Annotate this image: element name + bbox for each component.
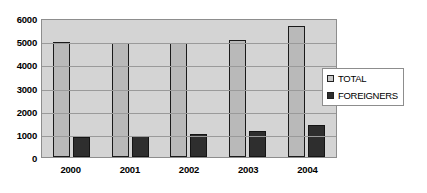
gridline [42, 90, 336, 91]
bar-foreigners-2003 [249, 131, 266, 157]
bar-chart: 0100020003000400050006000 20002001200220… [0, 0, 427, 193]
bar-total-2004 [288, 26, 305, 157]
gridline [42, 66, 336, 67]
x-axis-tick-label: 2001 [100, 160, 159, 180]
y-axis-tick-label: 6000 [17, 14, 37, 25]
legend-swatch-foreigners-icon [327, 92, 334, 99]
legend-item: TOTAL [327, 73, 398, 84]
bar-foreigners-2004 [308, 125, 325, 157]
x-axis-tick-label: 2003 [219, 160, 278, 180]
gridline [42, 136, 336, 137]
y-axis-tick-label: 4000 [17, 60, 37, 71]
x-axis-tick-label: 2000 [41, 160, 100, 180]
gridline [42, 113, 336, 114]
plot-area [41, 19, 337, 158]
y-axis-tick-label: 3000 [17, 83, 37, 94]
x-axis: 20002001200220032004 [41, 160, 337, 180]
legend-label: FOREIGNERS [338, 90, 398, 101]
y-axis-tick-label: 2000 [17, 106, 37, 117]
legend-label: TOTAL [338, 73, 366, 84]
bar-total-2002 [170, 43, 187, 157]
bar-foreigners-2002 [190, 134, 207, 157]
legend-swatch-total-icon [327, 75, 334, 82]
y-axis: 0100020003000400050006000 [0, 14, 40, 164]
x-axis-tick-label: 2004 [278, 160, 337, 180]
chart-legend: TOTALFOREIGNERS [322, 68, 404, 106]
bar-total-2000 [53, 42, 70, 157]
legend-item: FOREIGNERS [327, 90, 398, 101]
bar-total-2003 [229, 40, 246, 157]
gridline [42, 43, 336, 44]
y-axis-tick-label: 0 [32, 153, 37, 164]
y-axis-tick-label: 1000 [17, 129, 37, 140]
bar-foreigners-2001 [132, 136, 149, 157]
y-axis-tick-label: 5000 [17, 37, 37, 48]
bar-total-2001 [112, 43, 129, 157]
x-axis-tick-label: 2002 [159, 160, 218, 180]
bar-foreigners-2000 [73, 137, 90, 157]
